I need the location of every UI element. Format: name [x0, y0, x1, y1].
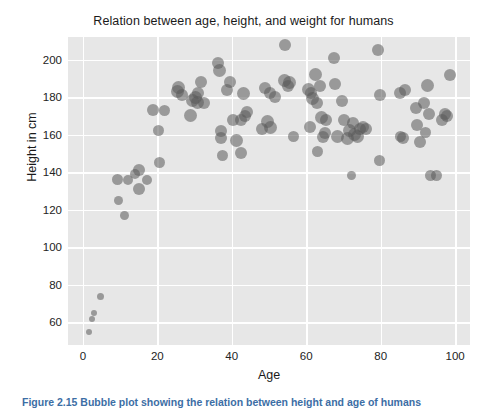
data-point — [97, 293, 104, 300]
data-point — [304, 121, 316, 133]
data-point — [320, 114, 332, 126]
data-point — [328, 52, 340, 64]
data-point — [372, 44, 384, 56]
data-point — [224, 76, 236, 88]
data-point — [264, 121, 277, 134]
data-point — [86, 329, 92, 335]
data-point — [319, 127, 331, 139]
x-tick-label: 80 — [351, 350, 411, 362]
data-point — [133, 164, 145, 176]
data-point — [360, 123, 372, 135]
data-point — [89, 316, 95, 322]
data-point — [230, 134, 243, 147]
x-axis-tick-labels: 020406080100 — [68, 350, 470, 366]
y-tick-label: 60 — [4, 316, 62, 328]
data-point — [269, 91, 281, 103]
figure-container: Relation between age, height, and weight… — [0, 0, 487, 409]
x-tick-label: 100 — [425, 350, 485, 362]
figure-caption: Figure 2.15 Bubble plot showing the rela… — [22, 396, 477, 408]
data-point — [288, 131, 299, 142]
data-point — [444, 69, 456, 81]
data-point — [154, 157, 165, 168]
data-point — [279, 39, 291, 51]
data-point — [147, 104, 159, 116]
data-point — [241, 106, 253, 118]
data-point — [213, 64, 226, 77]
data-point — [347, 171, 356, 180]
data-point — [374, 155, 385, 166]
data-point — [399, 84, 411, 96]
data-point — [329, 78, 341, 90]
chart-title: Relation between age, height, and weight… — [0, 14, 487, 28]
data-point — [112, 174, 123, 185]
data-point — [374, 89, 386, 101]
data-point — [235, 147, 247, 159]
x-axis-label: Age — [68, 368, 470, 382]
x-tick-label: 0 — [53, 350, 113, 362]
y-tick-label: 80 — [4, 279, 62, 291]
data-point — [184, 109, 197, 122]
data-point — [420, 127, 431, 138]
data-point — [159, 105, 170, 116]
y-axis-label: Height in cm — [25, 52, 39, 242]
data-point — [336, 95, 348, 107]
data-point — [237, 87, 250, 100]
data-point — [142, 175, 152, 185]
data-point — [153, 125, 164, 136]
data-point — [423, 108, 435, 120]
data-point — [312, 146, 323, 157]
plot-area — [68, 37, 470, 345]
data-point — [431, 170, 442, 181]
scatter-points-layer — [68, 37, 470, 345]
y-tick-label: 100 — [4, 241, 62, 253]
data-point — [198, 97, 210, 109]
x-tick-label: 60 — [276, 350, 336, 362]
data-point — [397, 132, 409, 144]
data-point — [91, 310, 97, 316]
data-point — [282, 80, 294, 92]
data-point — [215, 132, 227, 144]
data-point — [314, 80, 326, 92]
x-tick-label: 40 — [202, 350, 262, 362]
data-point — [441, 110, 453, 122]
data-point — [311, 97, 323, 109]
x-tick-label: 20 — [127, 350, 187, 362]
data-point — [114, 196, 123, 205]
data-point — [195, 76, 207, 88]
data-point — [421, 79, 434, 92]
data-point — [120, 211, 129, 220]
data-point — [418, 97, 430, 109]
data-point — [133, 183, 145, 195]
data-point — [217, 150, 228, 161]
